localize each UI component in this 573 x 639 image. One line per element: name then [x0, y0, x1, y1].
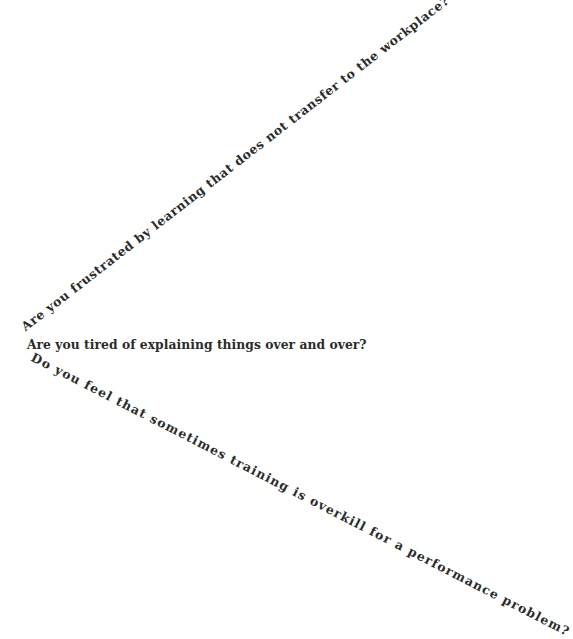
question-repeated-explaining: Are you tired of explaining things over … [27, 339, 367, 351]
question-transfer-frustration: Are you frustrated by learning that does… [19, 0, 451, 333]
question-training-overkill: Do you feel that sometimes training is o… [29, 351, 572, 638]
